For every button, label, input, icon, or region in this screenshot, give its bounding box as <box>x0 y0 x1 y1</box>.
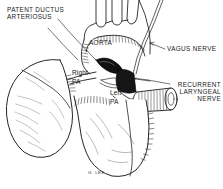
label-recurrent-laryngeal-nerve: RECURRENT LARYNGEAL NERVE <box>172 82 221 103</box>
label-pda-line2: ARTERIOSUS <box>7 13 52 20</box>
leader-rln <box>148 80 170 84</box>
heart-body <box>74 96 154 176</box>
leader-vagus <box>150 43 165 49</box>
left-lung <box>6 60 75 158</box>
anatomical-illustration: PATENT DUCTUS ARTERIOSUS AORTA VAGUS NER… <box>0 0 223 189</box>
artist-signature: G. LEE. <box>88 171 107 176</box>
label-vagus-nerve: VAGUS NERVE <box>167 46 216 53</box>
leader-pda-secondary <box>48 28 78 60</box>
brachiocephalic-branches <box>96 0 139 27</box>
label-rln-line3: NERVE <box>197 95 221 102</box>
label-right-pa-line1: Right <box>72 69 88 76</box>
label-right-pa-line2: PA <box>72 78 81 85</box>
label-aorta: AORTA <box>89 40 112 47</box>
label-patent-ductus-arteriosus: PATENT DUCTUS ARTERIOSUS <box>7 7 64 21</box>
label-left-pa-line2: PA <box>110 98 119 105</box>
label-left-pa-line1: Left <box>110 89 121 96</box>
